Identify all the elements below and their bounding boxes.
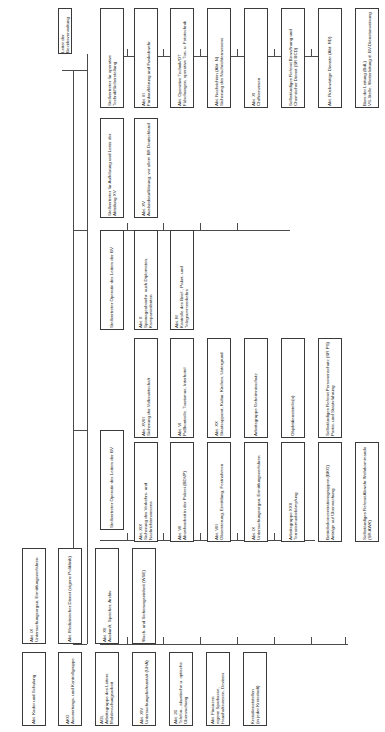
node-abt-19[interactable]: Abt. XIX Sicherung des Verkehrs- und Nac…: [134, 442, 158, 542]
node-label: Kreisdienststellen (in jeder Kreisstadt): [250, 654, 260, 724]
node-ag-geheimnisschutz[interactable]: Arbeitsgruppe Geheimnisschutz: [244, 338, 268, 438]
node-wse[interactable]: Wach- und Sicherungseinheit (WSE): [132, 548, 156, 644]
connector: [163, 223, 164, 231]
connector: [200, 533, 201, 541]
connector: [274, 637, 275, 645]
node-abt-3[interactable]: Abt. III Funkaufklärung und Funkabwehr: [134, 8, 158, 108]
node-abt-8[interactable]: Abt. VIII Observierung, Ermittlung, Fest…: [207, 442, 231, 542]
node-label: Selbständiges Referat Abwehr Wehrkommand…: [362, 444, 372, 540]
node-label: Abt. III Funkaufklärung und Funkabwehr: [141, 10, 151, 106]
connector: [311, 49, 312, 57]
connector: [87, 54, 88, 70]
org-chart: Leiter der Bezirksverwaltung Stellvertre…: [0, 0, 385, 732]
connector: [237, 49, 238, 57]
node-finanzen[interactable]: Abt. Finanzen eigene Sparkasse, Haushalt…: [206, 652, 230, 726]
node-abt-9[interactable]: Abt. IX Untersuchungsorgan, Ermittlungsv…: [244, 442, 268, 542]
node-label: Abt. M Kontrolle des Brief-, Paket- und …: [174, 232, 190, 328]
node-label: Wach- und Sicherungseinheit (WSE): [141, 550, 146, 642]
connector: [311, 637, 312, 645]
node-agl[interactable]: AGL Arbeitsgruppe des Leiters Mobilmachu…: [95, 652, 119, 726]
node-label: Stellvertreter für Aufklärung und Leiter…: [107, 120, 117, 216]
node-med-dienst[interactable]: Abt. Medizinischer Dienst (eigene Polikl…: [58, 548, 82, 644]
node-label: Leiter der Bezirksverwaltung: [60, 9, 70, 53]
node-objektdienststelle[interactable]: Objektdienststelle(n): [281, 338, 305, 438]
node-label: Stellvertreter für operative Technik/Sic…: [107, 10, 117, 106]
node-abt-ot[interactable]: Abt. Operative Technik/OT Fälschungen, o…: [170, 8, 194, 108]
connector: [237, 533, 238, 541]
node-label: Abt. XIV Untersuchungshaftanstalt (UHA): [139, 654, 149, 724]
node-abt-20[interactable]: Abt. XX Staatsapparat, Kultur, Kirchen, …: [207, 338, 231, 438]
node-label: Betriebskonzentrationsgruppen (BKG) Antr…: [325, 444, 335, 540]
node-abt-m[interactable]: Abt. M Kontrolle des Brief-, Paket- und …: [170, 230, 194, 330]
node-label: Stellvertreter Operativ des Leiters der …: [109, 232, 114, 328]
node-label: Objektdienststelle(n): [290, 340, 295, 436]
node-abt-12[interactable]: Abt. XII Auskunft, Speicher, Archiv: [95, 548, 119, 644]
node-label: Abt. Operative Technik/OT Fälschungen, o…: [177, 10, 187, 106]
node-kader-schulung[interactable]: Abt. Kader und Schulung: [22, 652, 46, 726]
node-sr-awk[interactable]: Selbständiges Referat Abwehr Wehrkommand…: [355, 442, 379, 542]
node-label: Abt. XIX Sicherung des Verkehrs- und Nac…: [138, 444, 154, 540]
connector: [62, 70, 74, 71]
connector: [163, 49, 164, 57]
connector: [127, 223, 128, 231]
connector: [274, 533, 275, 541]
node-abt-9b[interactable]: Abt. IX Untersuchungsorgan, Ermittlungsv…: [22, 548, 46, 644]
connector: [237, 223, 238, 231]
node-label: Abt. VIII Observierung, Ermittlung, Fest…: [214, 444, 224, 540]
connector: [73, 230, 87, 231]
connector-bus: [100, 230, 290, 231]
node-deputy-operativ-1[interactable]: Stellvertreter Operativ des Leiters der …: [100, 230, 124, 330]
node-abt-18[interactable]: Abt. XVIII Sicherung der Volkswirtschaft: [134, 338, 158, 438]
connector: [127, 637, 128, 645]
node-label: Abt. Finanzen eigene Sparkasse, Haushalt…: [210, 654, 226, 724]
node-label: Abt. IX Untersuchungsorgan, Ermittlungsv…: [29, 550, 39, 642]
node-abt-n[interactable]: Abt. Nachrichten (Abt. N) Sicherung des …: [207, 8, 231, 108]
node-label: Abt. Nachrichten (Abt. N) Sicherung des …: [214, 10, 224, 106]
node-deputy-aufklaerung[interactable]: Stellvertreter für Aufklärung und Leiter…: [100, 118, 124, 218]
node-abt-xi[interactable]: Abt. XI Chiffrierwesen: [244, 8, 268, 108]
node-label: Abt. II Spionageabwehr: auch Diplomaten,…: [138, 232, 154, 328]
node-deputy-operativ-2[interactable]: Stellvertreter Operativ des Leiters der …: [100, 430, 124, 530]
node-label: Abt. Rückwärtige Dienste (Abt. RD): [327, 10, 332, 106]
node-abt-xv[interactable]: Abt. XV Auslandsaufklärung, vor allem BR…: [134, 118, 158, 218]
node-akg[interactable]: AKG Auswertungs- und Kontrollgruppe: [58, 652, 82, 726]
connector: [73, 644, 87, 645]
node-label: Abt. IX Untersuchungsorgan, Ermittlungsv…: [251, 444, 261, 540]
node-label: Selbständiges Referat Bewaffnung und Che…: [288, 10, 298, 106]
node-abt-6[interactable]: Abt. VI Paßkontrolle, Tourismus, Interho…: [170, 338, 194, 438]
node-label: Abt. Medizinischer Dienst (eigene Polikl…: [67, 550, 72, 642]
connector: [87, 70, 88, 644]
node-ag-22[interactable]: Arbeitsgruppe XXII Terrorismusbekämpfung: [281, 442, 305, 542]
connector: [127, 533, 128, 541]
node-label: Abt. XI Chiffrierwesen: [251, 10, 261, 106]
node-bdl[interactable]: Büro der Leitung (BdL) VS-Stelle, Weiter…: [355, 8, 379, 108]
node-label: Abt. 26 Telefon-, akustische u. optische…: [173, 654, 189, 724]
node-label: Abt. VI Paßkontrolle, Tourismus, Interho…: [177, 340, 187, 436]
node-label: Arbeitsgruppe Geheimnisschutz: [253, 340, 258, 436]
connector: [200, 223, 201, 231]
connector: [237, 637, 238, 645]
node-label: Selbständiges Referat Personenschutz (SR…: [325, 340, 335, 436]
node-abt-7[interactable]: Abt. VII Abwehrarbeit in der Polizei (BD…: [170, 442, 194, 542]
node-kreisdienststellen[interactable]: Kreisdienststellen (in jeder Kreisstadt): [243, 652, 267, 726]
node-abt-26[interactable]: Abt. 26 Telefon-, akustische u. optische…: [169, 652, 193, 726]
connector: [200, 49, 201, 57]
node-label: Abt. Kader und Schulung: [31, 654, 36, 724]
node-bkg[interactable]: Betriebskonzentrationsgruppen (BKG) Antr…: [318, 442, 342, 542]
node-abt-14[interactable]: Abt. XIV Untersuchungshaftanstalt (UHA): [132, 652, 156, 726]
node-label: Arbeitsgruppe XXII Terrorismusbekämpfung: [288, 444, 298, 540]
node-deputy-technik[interactable]: Stellvertreter für operative Technik/Sic…: [100, 8, 124, 108]
node-label: AKG Auswertungs- und Kontrollgruppe: [65, 654, 75, 724]
connector: [200, 637, 201, 645]
node-abt-2-box[interactable]: Abt. II Spionageabwehr: auch Diplomaten,…: [134, 230, 158, 330]
node-sr-bcd[interactable]: Selbständiges Referat Bewaffnung und Che…: [281, 8, 305, 108]
connector: [163, 533, 164, 541]
node-root[interactable]: Leiter der Bezirksverwaltung: [58, 8, 72, 54]
node-label: Abt. XX Staatsapparat, Kultur, Kirchen, …: [214, 340, 224, 436]
node-sr-ps[interactable]: Selbständiges Referat Personenschutz (SR…: [318, 338, 342, 438]
node-label: Abt. VII Abwehrarbeit in der Polizei (BD…: [177, 444, 187, 540]
connector: [274, 49, 275, 57]
node-label: Büro der Leitung (BdL) VS-Stelle, Weiter…: [362, 10, 372, 106]
node-abt-rd[interactable]: Abt. Rückwärtige Dienste (Abt. RD): [318, 8, 342, 108]
connector: [345, 637, 346, 645]
